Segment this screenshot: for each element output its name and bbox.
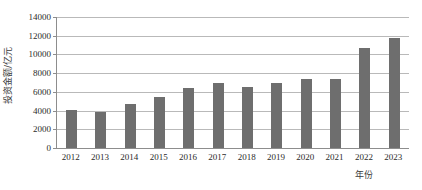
x-axis-title: 年份	[355, 168, 373, 181]
bar-slot	[57, 17, 86, 148]
x-axis-tick-label: 2016	[173, 152, 202, 166]
x-axis-tick-label: 2019	[261, 152, 290, 166]
bar-slot	[145, 17, 174, 148]
x-axis-tick-label: 2018	[232, 152, 261, 166]
x-axis-tick-labels: 2012201320142015201620172018201920202021…	[56, 152, 408, 166]
bar-slot	[233, 17, 262, 148]
x-axis-tick-label: 2012	[56, 152, 85, 166]
x-axis-tick-label: 2014	[115, 152, 144, 166]
bar[interactable]	[242, 87, 253, 148]
bar-slot	[262, 17, 291, 148]
bar[interactable]	[154, 97, 165, 148]
bar[interactable]	[271, 83, 282, 148]
bar[interactable]	[330, 79, 341, 148]
y-axis-tick-labels: 2000400060008000100001200014000	[16, 11, 54, 155]
bar[interactable]	[66, 110, 77, 148]
x-axis-tick-label: 2022	[349, 152, 378, 166]
x-axis-tick-label: 2021	[320, 152, 349, 166]
plot-area	[56, 17, 409, 149]
y-axis-tick-label: 4000	[33, 106, 51, 116]
x-axis-tick-label: 2020	[291, 152, 320, 166]
y-axis-tick-label: 6000	[33, 87, 51, 97]
x-axis-tick-label: 2017	[203, 152, 232, 166]
bar-slot	[380, 17, 409, 148]
y-axis-tick-label-zero: 0	[16, 143, 54, 153]
bar-slot	[292, 17, 321, 148]
x-axis-tick-label: 2023	[379, 152, 408, 166]
y-axis-tick-mark	[53, 148, 57, 149]
bar-slot	[116, 17, 145, 148]
bar[interactable]	[95, 112, 106, 148]
bar-slot	[204, 17, 233, 148]
y-axis-tick-label: 8000	[33, 68, 51, 78]
bar[interactable]	[301, 79, 312, 148]
bar-slot	[321, 17, 350, 148]
bar-slot	[86, 17, 115, 148]
bar-slot	[174, 17, 203, 148]
bar[interactable]	[213, 83, 224, 149]
bar-slot	[350, 17, 379, 148]
bar[interactable]	[359, 48, 370, 148]
bar[interactable]	[183, 88, 194, 148]
bar[interactable]	[389, 38, 400, 148]
x-axis-tick-label: 2015	[144, 152, 173, 166]
y-axis-tick-label: 2000	[33, 124, 51, 134]
y-axis-tick-label: 10000	[29, 49, 52, 59]
y-axis-title: 投资金额/亿元	[0, 0, 16, 150]
y-axis-tick-label: 14000	[29, 12, 52, 22]
y-axis-title-text: 投资金额/亿元	[2, 46, 15, 103]
bar-chart: 投资金额/亿元 2000400060008000100001200014000 …	[0, 0, 422, 190]
y-axis-tick-label: 12000	[29, 31, 52, 41]
bar[interactable]	[125, 104, 136, 148]
bars-layer	[57, 17, 409, 148]
x-axis-tick-label: 2013	[85, 152, 114, 166]
